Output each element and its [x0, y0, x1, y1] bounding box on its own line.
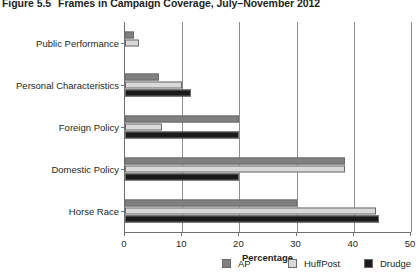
legend-swatch-icon — [288, 259, 297, 268]
bar-huffpost-domestic-policy — [125, 166, 345, 173]
x-axis-line — [124, 232, 411, 233]
x-tick-20 — [238, 232, 239, 236]
figure-caption: Figure 5.5Frames in Campaign Coverage, J… — [2, 0, 417, 12]
gridline-50 — [411, 22, 412, 232]
bar-ap-horse-race — [125, 200, 297, 207]
bar-group — [125, 32, 411, 55]
legend-item-drudge[interactable]: Drudge — [364, 258, 411, 269]
category-row: Domestic Policy — [125, 148, 411, 190]
x-tick-label: 20 — [233, 238, 244, 249]
x-tick-label: 10 — [176, 238, 187, 249]
bar-group — [125, 116, 411, 139]
chart-legend: APHuffPostDrudge — [0, 258, 419, 278]
plot-area: Public PerformancePersonal Characteristi… — [124, 22, 411, 232]
bar-ap-domestic-policy — [125, 158, 345, 165]
page-title: Frames in Campaign Coverage, July–Novemb… — [58, 0, 320, 9]
category-label: Foreign Policy — [59, 122, 119, 133]
legend-swatch-icon — [222, 259, 231, 268]
bar-drudge-personal-characteristics — [125, 90, 191, 97]
bar-huffpost-public-performance — [125, 40, 139, 47]
category-row: Public Performance — [125, 22, 411, 64]
legend-item-ap[interactable]: AP — [222, 258, 251, 269]
bar-chart: Public PerformancePersonal Characteristi… — [0, 14, 419, 278]
bar-ap-public-performance — [125, 32, 134, 39]
legend-label: Drudge — [380, 258, 411, 269]
legend-label: AP — [238, 258, 251, 269]
x-tick-label: 30 — [290, 238, 301, 249]
bar-group — [125, 158, 411, 181]
bar-huffpost-horse-race — [125, 208, 376, 215]
legend-item-huffpost[interactable]: HuffPost — [288, 258, 340, 269]
category-label: Domestic Policy — [51, 164, 119, 175]
category-row: Personal Characteristics — [125, 64, 411, 106]
legend-swatch-icon — [364, 259, 373, 268]
category-label: Public Performance — [36, 38, 119, 49]
bar-group — [125, 74, 411, 97]
category-row: Horse Race — [125, 190, 411, 232]
bar-group — [125, 200, 411, 223]
bar-ap-foreign-policy — [125, 116, 239, 123]
x-tick-30 — [296, 232, 297, 236]
x-tick-label: 50 — [405, 238, 416, 249]
bar-drudge-foreign-policy — [125, 132, 239, 139]
legend-label: HuffPost — [304, 258, 340, 269]
bar-drudge-horse-race — [125, 216, 379, 223]
x-tick-40 — [353, 232, 354, 236]
figure-number: Figure 5.5 — [2, 0, 51, 9]
category-label: Personal Characteristics — [16, 80, 119, 91]
bar-huffpost-foreign-policy — [125, 124, 162, 131]
x-tick-50 — [410, 232, 411, 236]
x-tick-label: 40 — [348, 238, 359, 249]
x-tick-0 — [124, 232, 125, 236]
bar-huffpost-personal-characteristics — [125, 82, 182, 89]
x-tick-label: 0 — [121, 238, 126, 249]
bar-drudge-domestic-policy — [125, 174, 239, 181]
bar-ap-personal-characteristics — [125, 74, 159, 81]
category-row: Foreign Policy — [125, 106, 411, 148]
x-tick-10 — [181, 232, 182, 236]
category-label: Horse Race — [69, 206, 119, 217]
